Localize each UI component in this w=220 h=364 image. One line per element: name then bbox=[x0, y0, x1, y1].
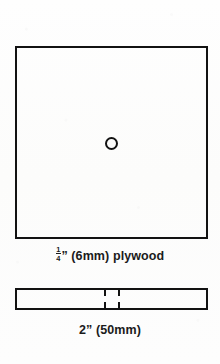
metric-value: (6mm) bbox=[71, 249, 109, 263]
kerf-mark-left bbox=[104, 290, 106, 308]
kerf-mark-right bbox=[118, 290, 120, 308]
plywood-edge-profile bbox=[15, 288, 208, 310]
diagram-canvas: 1 4 ” (6mm) plywood 2” (50mm) bbox=[0, 0, 220, 364]
center-hole-icon bbox=[105, 137, 118, 150]
caption-edge-dimension: 2” (50mm) bbox=[0, 323, 220, 338]
inch-mark: ” bbox=[61, 249, 67, 263]
fraction-numerator: 1 bbox=[56, 246, 61, 255]
caption-plywood-material: 1 4 ” (6mm) plywood bbox=[0, 245, 220, 264]
material-label: plywood bbox=[113, 249, 164, 263]
fraction-one-quarter: 1 4 bbox=[56, 246, 61, 262]
fraction-denominator: 4 bbox=[56, 254, 61, 262]
